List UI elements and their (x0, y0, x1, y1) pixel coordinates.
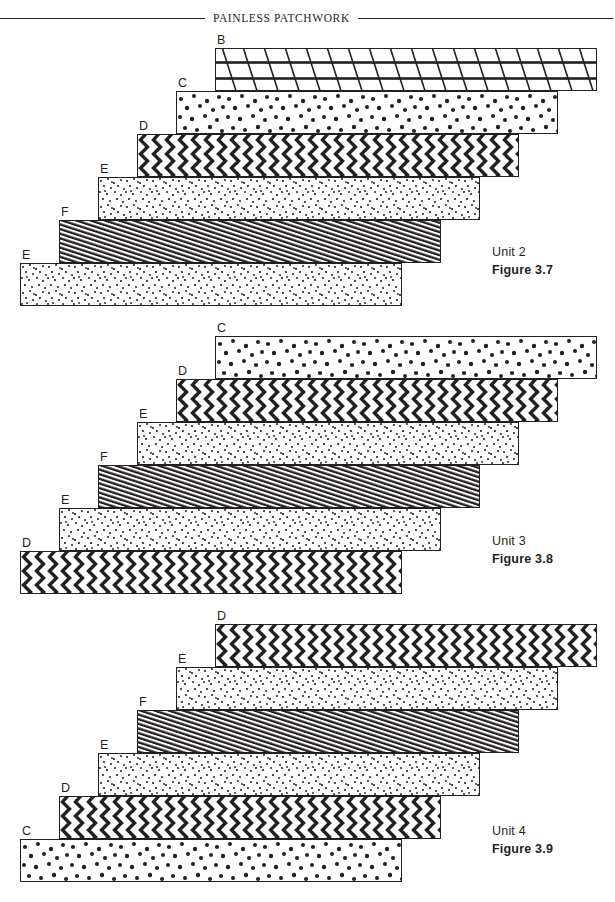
fabric-strip-f (137, 710, 519, 753)
strip-letter-label: C (22, 825, 31, 838)
strip-letter-label: E (100, 163, 109, 176)
fabric-pattern-d (21, 552, 401, 593)
page-title: PAINLESS PATCHWORK (213, 12, 350, 24)
fabric-strip-e (98, 177, 480, 220)
fabric-strip-c (215, 336, 597, 379)
strip-letter-label: E (139, 408, 148, 421)
strip-letter-label: D (139, 120, 148, 133)
figure-unit-4: DEFEDC Unit 4 Figure 3.9 (0, 624, 615, 886)
fabric-pattern-d (177, 380, 557, 421)
fabric-pattern-e (99, 754, 479, 795)
figure-caption: Unit 3 Figure 3.8 (492, 532, 553, 568)
fabric-pattern-f (138, 711, 518, 752)
fabric-strip-e (20, 263, 402, 306)
fabric-pattern-d (138, 135, 518, 176)
figure-caption: Unit 2 Figure 3.7 (492, 243, 553, 279)
fabric-pattern-e (138, 423, 518, 464)
fabric-pattern-c (216, 337, 596, 378)
figure-caption: Unit 4 Figure 3.9 (492, 822, 553, 858)
fabric-pattern-e (177, 668, 557, 709)
strip-letter-label: D (217, 610, 226, 623)
fabric-pattern-e (60, 509, 440, 550)
fabric-pattern-d (216, 625, 596, 666)
fabric-pattern-c (21, 840, 401, 881)
fabric-strip-f (59, 220, 441, 263)
strip-letter-label: E (178, 653, 187, 666)
fabric-pattern-c (177, 92, 557, 133)
strip-letter-label: C (217, 322, 226, 335)
fabric-strip-d (59, 796, 441, 839)
strip-letter-label: C (178, 77, 187, 90)
fabric-strip-d (176, 379, 558, 422)
fabric-strip-c (20, 839, 402, 882)
strip-letter-label: D (61, 782, 70, 795)
fabric-strip-e (59, 508, 441, 551)
fabric-pattern-f (99, 466, 479, 507)
strip-letter-label: F (100, 451, 108, 464)
strip-letter-label: E (22, 249, 31, 262)
figure-number-label: Figure 3.9 (492, 840, 553, 858)
figure-unit-3: CDEFED Unit 3 Figure 3.8 (0, 336, 615, 598)
figure-number-label: Figure 3.7 (492, 261, 553, 279)
unit-label: Unit 4 (492, 822, 553, 840)
fabric-strip-d (215, 624, 597, 667)
unit-label: Unit 2 (492, 243, 553, 261)
fabric-pattern-e (21, 264, 401, 305)
figure-unit-2: BCDEFE Unit 2 Figure 3.7 (0, 48, 615, 310)
strip-letter-label: F (139, 696, 147, 709)
fabric-strip-e (137, 422, 519, 465)
strip-letter-label: E (61, 494, 70, 507)
fabric-pattern-b (216, 49, 596, 90)
strip-letter-label: B (217, 34, 226, 47)
fabric-strip-f (98, 465, 480, 508)
strip-letter-label: D (22, 537, 31, 550)
page-running-head: PAINLESS PATCHWORK (0, 8, 615, 28)
strip-letter-label: E (100, 739, 109, 752)
fabric-strip-e (98, 753, 480, 796)
strip-letter-label: D (178, 365, 187, 378)
header-rule-left (0, 18, 205, 19)
strip-letter-label: F (61, 206, 69, 219)
header-rule-right (358, 18, 613, 19)
fabric-strip-c (176, 91, 558, 134)
fabric-strip-b (215, 48, 597, 91)
fabric-pattern-f (60, 221, 440, 262)
fabric-strip-d (20, 551, 402, 594)
unit-label: Unit 3 (492, 532, 553, 550)
fabric-strip-d (137, 134, 519, 177)
fabric-strip-e (176, 667, 558, 710)
fabric-pattern-e (99, 178, 479, 219)
fabric-pattern-d (60, 797, 440, 838)
figure-number-label: Figure 3.8 (492, 550, 553, 568)
